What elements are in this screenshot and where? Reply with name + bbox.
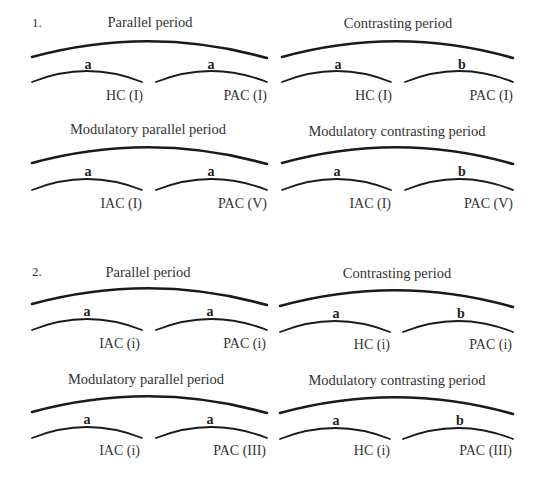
phrase-arc: [156, 179, 267, 190]
cadence-label: IAC (I): [349, 196, 391, 212]
section-number: 1.: [32, 15, 42, 31]
period-arc: [32, 147, 267, 164]
cadence-label: PAC (V): [464, 196, 513, 212]
cadence-label: PAC (III): [459, 443, 512, 459]
phrase-arc: [280, 428, 390, 439]
phrase-arc: [403, 321, 513, 332]
period-arc: [282, 147, 513, 164]
diagram-title: Parallel period: [108, 14, 193, 31]
diagram-title: Modulatory parallel period: [70, 121, 226, 138]
diagram-title: Modulatory parallel period: [68, 371, 224, 388]
cadence-label: HC (i): [354, 443, 390, 459]
cadence-label: IAC (i): [99, 443, 140, 459]
period-arc: [280, 290, 513, 307]
cadence-label: PAC (i): [469, 337, 512, 353]
phrase-letter: a: [85, 164, 92, 180]
period-arc: [282, 41, 513, 58]
phrase-letter: a: [207, 412, 214, 428]
phrase-letter: a: [208, 164, 215, 180]
phrase-arc: [403, 428, 513, 439]
phrase-letter: b: [458, 164, 466, 180]
period-arc: [32, 41, 267, 58]
phrase-letter: a: [208, 57, 215, 73]
phrase-letter: a: [334, 164, 341, 180]
phrase-arc: [32, 427, 142, 438]
section-number: 2.: [32, 264, 42, 280]
cadence-label: PAC (i): [223, 336, 266, 352]
phrase-arc: [280, 321, 390, 332]
period-arc: [280, 397, 513, 414]
phrase-arc: [405, 179, 513, 190]
cadence-label: HC (I): [106, 88, 143, 104]
diagram-title: Modulatory contrasting period: [308, 372, 485, 389]
cadence-label: PAC (III): [213, 443, 266, 459]
cadence-label: PAC (I): [470, 88, 513, 104]
diagram-title: Contrasting period: [343, 265, 451, 282]
phrase-letter: a: [84, 412, 91, 428]
phrase-letter: a: [333, 413, 340, 429]
diagram-title: Parallel period: [106, 264, 191, 281]
phrase-arc: [156, 427, 267, 438]
diagram-title: Contrasting period: [344, 15, 452, 32]
period-arc: [32, 288, 267, 305]
cadence-label: HC (I): [355, 88, 392, 104]
period-arc: [32, 396, 267, 413]
phrase-letter: a: [333, 306, 340, 322]
cadence-label: PAC (I): [224, 88, 267, 104]
phrase-letter: b: [457, 306, 465, 322]
cadence-label: HC (i): [354, 337, 390, 353]
phrase-letter: a: [335, 57, 342, 73]
cadence-label: PAC (V): [218, 196, 267, 212]
phrase-arc: [32, 319, 142, 330]
phrase-arc: [282, 179, 391, 190]
phrase-letter: a: [84, 304, 91, 320]
phrase-arc: [156, 319, 267, 330]
period-diagrams-figure: 1. Parallel period a a HC (I) PAC (I) Co…: [0, 0, 540, 485]
diagram-title: Modulatory contrasting period: [308, 123, 485, 140]
phrase-arc: [32, 179, 142, 190]
phrase-letter: a: [85, 57, 92, 73]
phrase-letter: b: [456, 413, 464, 429]
cadence-label: IAC (i): [99, 336, 140, 352]
cadence-label: IAC (I): [100, 196, 142, 212]
phrase-letter: b: [458, 57, 466, 73]
phrase-letter: a: [207, 304, 214, 320]
